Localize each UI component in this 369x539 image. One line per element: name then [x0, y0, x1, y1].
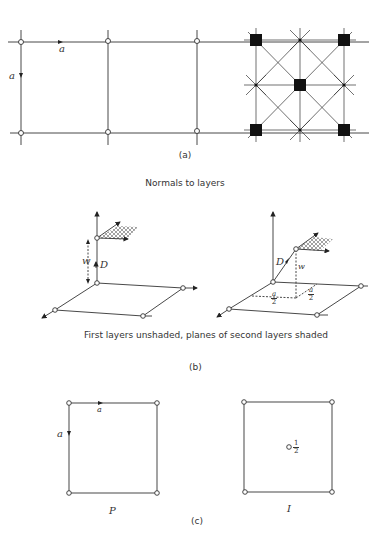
- fraction-a-half-2: a 2: [308, 287, 314, 302]
- layer-stacking-right: [217, 212, 368, 317]
- center-fraction-half: 1 2: [293, 440, 299, 455]
- primitive-cell-points: [67, 401, 160, 496]
- caption-c: (c): [191, 516, 203, 526]
- right-D-label: D: [276, 256, 284, 267]
- cell-a-vertical-label: a: [57, 428, 63, 439]
- left-D-label: D: [100, 259, 108, 270]
- right-w-label: w: [298, 262, 305, 271]
- layers-subtitle: First layers unshaded, planes of second …: [84, 330, 328, 340]
- normals-title: Normals to layers: [145, 178, 224, 188]
- body-centered-label: I: [287, 503, 291, 514]
- layer-stacking-left: [42, 212, 183, 318]
- fraction-a-half-1: a 2: [271, 291, 277, 306]
- lattice-a-horizontal-label: a: [59, 43, 65, 54]
- caption-b: (b): [189, 362, 202, 372]
- lattice-points: [19, 39, 200, 136]
- primitive-label: P: [109, 505, 116, 516]
- left-w-label: w: [82, 255, 91, 266]
- caption-a: (a): [179, 150, 192, 160]
- layer-points-right: [227, 247, 364, 318]
- primitive-cell: [67, 401, 157, 493]
- layer-points-left: [53, 236, 186, 319]
- body-centered-cell-points: [242, 400, 335, 495]
- lattice-a-vertical-label: a: [9, 70, 15, 81]
- lattice-diagram: [0, 0, 369, 539]
- cell-a-horizontal-label: a: [97, 405, 102, 414]
